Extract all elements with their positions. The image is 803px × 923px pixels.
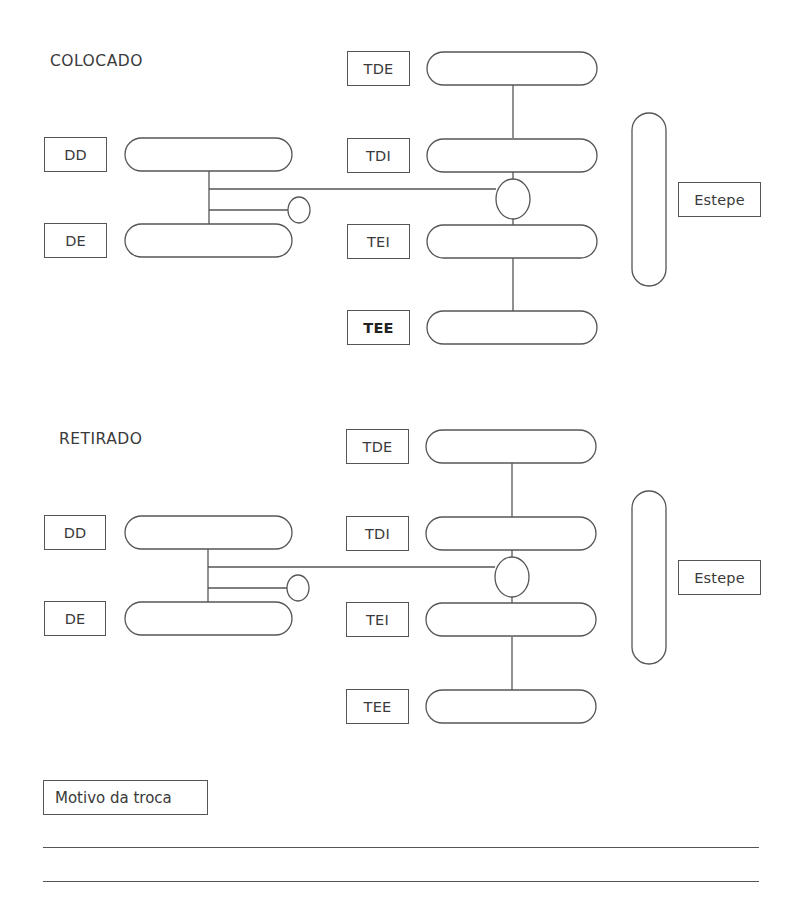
position-label-spare: Estepe [678, 182, 761, 217]
tire-tee[interactable] [426, 310, 599, 346]
tire-tei[interactable] [426, 224, 599, 260]
tire-tde[interactable] [426, 51, 599, 87]
steering-box-icon [288, 197, 310, 223]
differential-icon [495, 557, 529, 597]
tire-dd[interactable] [124, 515, 294, 551]
position-label-tdi: TDI [347, 138, 410, 173]
tire-de[interactable] [124, 223, 294, 259]
position-label-dd: DD [44, 137, 107, 172]
position-label-tdi: TDI [346, 516, 409, 551]
position-label-spare: Estepe [678, 560, 761, 595]
tire-tee[interactable] [425, 689, 598, 725]
section-retirado: RETIRADO DD DE TDE TDI TEI TEE Estepe [0, 378, 803, 748]
tire-de[interactable] [124, 601, 294, 637]
section-title: COLOCADO [50, 52, 143, 70]
tire-spare[interactable] [631, 112, 668, 288]
reason-label: Motivo da troca [43, 780, 208, 815]
differential-icon [496, 179, 530, 219]
tire-dd[interactable] [124, 137, 294, 173]
tire-tdi[interactable] [426, 138, 599, 174]
reason-input-line-2[interactable] [43, 881, 759, 882]
section-title: RETIRADO [59, 430, 142, 448]
position-label-dd: DD [44, 515, 106, 550]
position-label-tee: TEE [347, 310, 410, 345]
section-colocado: COLOCADO DD DE TDE TDI TEI TEE Estepe [0, 0, 803, 370]
position-label-tei: TEI [346, 602, 409, 637]
position-label-de: DE [44, 601, 106, 636]
position-label-tde: TDE [346, 429, 409, 464]
reason-input-line-1[interactable] [43, 847, 759, 848]
steering-box-icon [287, 575, 309, 601]
tire-tde[interactable] [425, 429, 598, 465]
tire-spare[interactable] [631, 490, 668, 666]
tire-tei[interactable] [425, 602, 598, 638]
position-label-tei: TEI [347, 224, 410, 259]
position-label-de: DE [44, 223, 107, 258]
position-label-tee: TEE [346, 689, 409, 724]
tire-tdi[interactable] [425, 516, 598, 552]
position-label-tde: TDE [347, 51, 410, 86]
